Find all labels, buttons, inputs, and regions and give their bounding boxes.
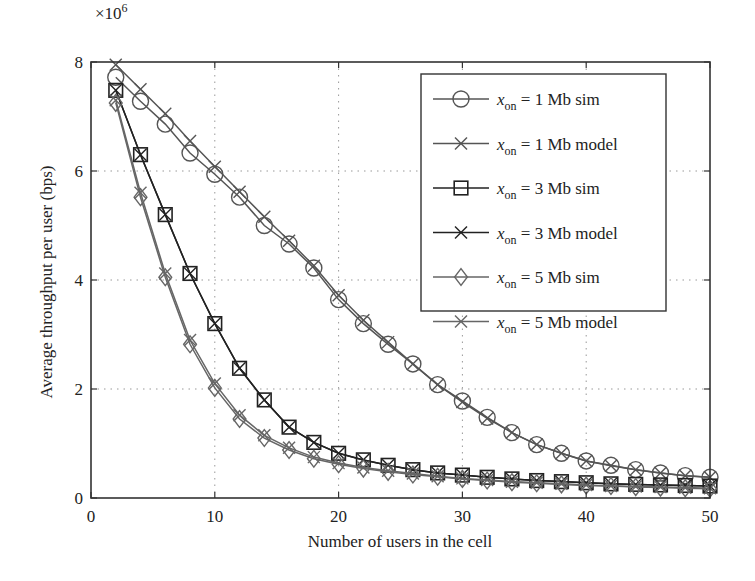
legend-label: xon = 5 Mb model — [496, 313, 618, 336]
throughput-chart: 01020304050 02468 ×106 Number of users i… — [0, 0, 755, 581]
legend-item: xon = 5 Mb model — [433, 313, 618, 336]
y-tick-label: 2 — [75, 380, 84, 399]
x-tick-label: 40 — [578, 507, 595, 526]
y-axis-tick-labels: 02468 — [75, 53, 84, 508]
x-tick-label: 20 — [330, 507, 347, 526]
legend: xon = 1 Mb simxon = 1 Mb modelxon = 3 Mb… — [421, 74, 666, 336]
y-tick-label: 6 — [75, 162, 84, 181]
y-axis-multiplier: ×106 — [95, 1, 128, 23]
y-axis-title: Average throughput per user (bps) — [37, 166, 56, 399]
x-tick-label: 50 — [702, 507, 719, 526]
x-tick-label: 0 — [87, 507, 96, 526]
x-axis-title: Number of users in the cell — [308, 532, 493, 551]
x-axis-tick-labels: 01020304050 — [87, 507, 719, 526]
y-tick-label: 4 — [75, 271, 84, 290]
y-tick-label: 0 — [75, 489, 84, 508]
x-tick-label: 30 — [454, 507, 471, 526]
y-tick-label: 8 — [75, 53, 84, 72]
x-tick-label: 10 — [206, 507, 223, 526]
